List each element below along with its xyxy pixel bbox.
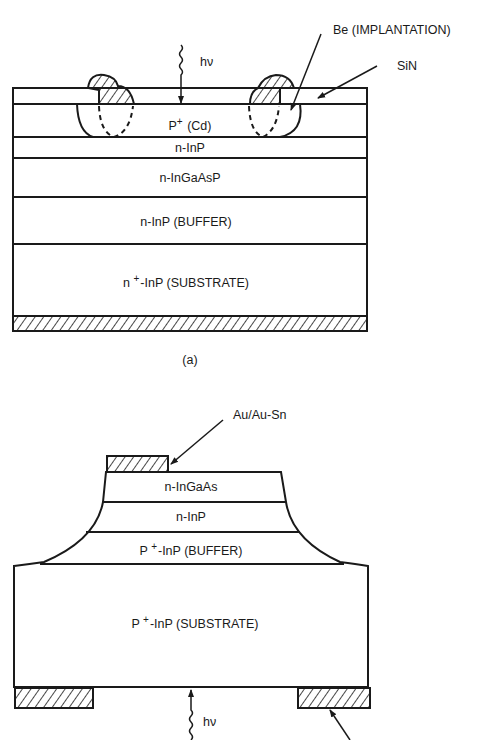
layer-b-n-ingaas: n-InGaAs (165, 481, 218, 494)
mesa-outline (14, 472, 368, 687)
layer-a-p-cd: P+ (Cd) (169, 117, 212, 133)
photon-arrow-bottom (190, 690, 193, 740)
layer-a-n-inp-buffer: n-InP (BUFFER) (140, 216, 231, 229)
bottom-contact-left (15, 688, 93, 708)
layer-b-p-inp-substrate: P +-InP (SUBSTRATE) (131, 615, 258, 631)
photon-label-bottom: hν (203, 716, 216, 729)
callout-sin: SiN (397, 60, 417, 73)
back-contact-metal (13, 316, 367, 331)
callout-be-implantation: Be (IMPLANTATION) (333, 24, 451, 37)
layer-a-n-inp: n-InP (175, 142, 205, 155)
layer-b-n-inp: n-InP (176, 511, 206, 524)
layer-a-substrate: n +-InP (SUBSTRATE) (123, 274, 249, 290)
callout-bottom-contact-line (330, 710, 350, 740)
figure-caption-a: (a) (182, 354, 197, 367)
callout-au-ausn-line (171, 420, 223, 464)
top-contact-au-ausn (107, 456, 168, 472)
photon-label-top: hν (200, 56, 213, 69)
layer-b-p-inp-buffer: P +-InP (BUFFER) (140, 542, 243, 558)
callout-au-ausn: Au/Au-Sn (233, 409, 287, 422)
figure-b-mesa-device (14, 420, 370, 740)
bottom-contact-right (298, 688, 370, 708)
layer-a-n-ingaasp: n-InGaAsP (159, 172, 220, 185)
